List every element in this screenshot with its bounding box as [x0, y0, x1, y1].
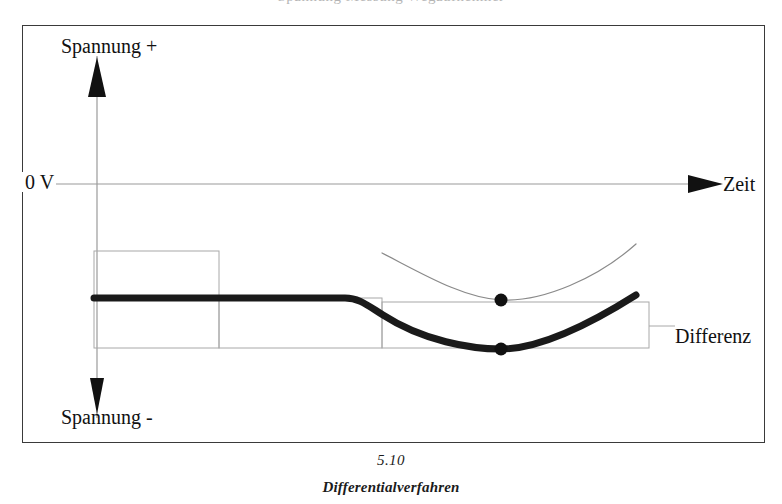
- y-axis-arrow-up-icon: [88, 57, 106, 97]
- figure-frame: Spannung + Spannung - Zeit Differenz 0 V: [22, 25, 765, 443]
- referenz-punkt-marker: [495, 294, 508, 307]
- page-top-text-sliver: Spannung Messung Wegaufnehmer: [0, 0, 782, 10]
- signal-curve-thick: [94, 295, 636, 349]
- figure-page: Spannung Messung Wegaufnehmer: [0, 0, 782, 504]
- axis-label-zero-volt: 0 V: [21, 172, 56, 192]
- figure-caption: 5.10 Differentialverfahren: [0, 452, 782, 496]
- top-sliver-text: Spannung Messung Wegaufnehmer: [277, 0, 504, 4]
- signal-punkt-marker: [495, 343, 508, 356]
- x-axis-arrow-right-icon: [688, 175, 723, 193]
- caption-number: 5.10: [0, 452, 782, 469]
- axis-label-zeit: Zeit: [723, 174, 755, 194]
- axis-label-spannung-negativ: Spannung -: [61, 407, 153, 427]
- reference-curve-thin: [382, 244, 636, 300]
- rect-unten-mitte: [219, 298, 382, 348]
- axis-label-spannung-positiv: Spannung +: [61, 36, 157, 56]
- diagram-canvas: [23, 26, 766, 444]
- annotation-label-differenz: Differenz: [675, 326, 751, 346]
- caption-title: Differentialverfahren: [0, 479, 782, 496]
